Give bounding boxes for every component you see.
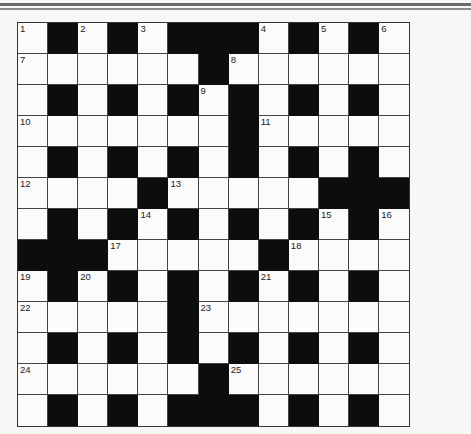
letter-cell[interactable] bbox=[289, 178, 319, 209]
letter-cell[interactable] bbox=[138, 271, 168, 302]
letter-cell[interactable]: 16 bbox=[379, 209, 409, 240]
letter-cell[interactable]: 4 bbox=[259, 23, 289, 54]
letter-cell[interactable]: 7 bbox=[18, 54, 48, 85]
letter-cell[interactable]: 2 bbox=[78, 23, 108, 54]
letter-cell[interactable] bbox=[18, 147, 48, 178]
letter-cell[interactable] bbox=[319, 333, 349, 364]
letter-cell[interactable] bbox=[379, 147, 409, 178]
letter-cell[interactable] bbox=[199, 147, 229, 178]
letter-cell[interactable] bbox=[259, 178, 289, 209]
letter-cell[interactable] bbox=[259, 395, 289, 426]
letter-cell[interactable] bbox=[289, 116, 319, 147]
letter-cell[interactable] bbox=[259, 302, 289, 333]
letter-cell[interactable]: 12 bbox=[18, 178, 48, 209]
letter-cell[interactable] bbox=[199, 271, 229, 302]
letter-cell[interactable] bbox=[138, 364, 168, 395]
letter-cell[interactable] bbox=[379, 54, 409, 85]
letter-cell[interactable]: 25 bbox=[229, 364, 259, 395]
letter-cell[interactable] bbox=[229, 178, 259, 209]
letter-cell[interactable] bbox=[18, 333, 48, 364]
letter-cell[interactable] bbox=[199, 209, 229, 240]
letter-cell[interactable] bbox=[259, 85, 289, 116]
letter-cell[interactable] bbox=[259, 54, 289, 85]
letter-cell[interactable] bbox=[379, 302, 409, 333]
letter-cell[interactable] bbox=[379, 364, 409, 395]
letter-cell[interactable] bbox=[108, 54, 138, 85]
letter-cell[interactable] bbox=[199, 333, 229, 364]
letter-cell[interactable]: 22 bbox=[18, 302, 48, 333]
letter-cell[interactable] bbox=[138, 116, 168, 147]
letter-cell[interactable] bbox=[18, 209, 48, 240]
letter-cell[interactable] bbox=[48, 364, 78, 395]
letter-cell[interactable] bbox=[78, 147, 108, 178]
letter-cell[interactable]: 9 bbox=[199, 85, 229, 116]
letter-cell[interactable]: 1 bbox=[18, 23, 48, 54]
letter-cell[interactable] bbox=[18, 395, 48, 426]
letter-cell[interactable] bbox=[138, 302, 168, 333]
letter-cell[interactable]: 6 bbox=[379, 23, 409, 54]
letter-cell[interactable] bbox=[18, 85, 48, 116]
letter-cell[interactable] bbox=[78, 333, 108, 364]
letter-cell[interactable] bbox=[78, 116, 108, 147]
letter-cell[interactable]: 17 bbox=[108, 240, 138, 271]
letter-cell[interactable] bbox=[78, 85, 108, 116]
letter-cell[interactable] bbox=[138, 147, 168, 178]
letter-cell[interactable]: 3 bbox=[138, 23, 168, 54]
letter-cell[interactable] bbox=[168, 54, 198, 85]
letter-cell[interactable] bbox=[199, 116, 229, 147]
letter-cell[interactable]: 23 bbox=[199, 302, 229, 333]
letter-cell[interactable] bbox=[379, 395, 409, 426]
letter-cell[interactable] bbox=[168, 116, 198, 147]
letter-cell[interactable] bbox=[349, 240, 379, 271]
letter-cell[interactable] bbox=[319, 54, 349, 85]
letter-cell[interactable] bbox=[78, 364, 108, 395]
letter-cell[interactable] bbox=[349, 116, 379, 147]
letter-cell[interactable] bbox=[168, 364, 198, 395]
letter-cell[interactable] bbox=[168, 240, 198, 271]
letter-cell[interactable] bbox=[108, 302, 138, 333]
letter-cell[interactable] bbox=[319, 364, 349, 395]
letter-cell[interactable] bbox=[108, 116, 138, 147]
letter-cell[interactable] bbox=[229, 302, 259, 333]
letter-cell[interactable] bbox=[379, 116, 409, 147]
letter-cell[interactable] bbox=[349, 54, 379, 85]
letter-cell[interactable] bbox=[319, 116, 349, 147]
letter-cell[interactable]: 20 bbox=[78, 271, 108, 302]
letter-cell[interactable]: 13 bbox=[168, 178, 198, 209]
letter-cell[interactable]: 21 bbox=[259, 271, 289, 302]
letter-cell[interactable]: 11 bbox=[259, 116, 289, 147]
letter-cell[interactable] bbox=[319, 271, 349, 302]
letter-cell[interactable]: 24 bbox=[18, 364, 48, 395]
letter-cell[interactable] bbox=[138, 85, 168, 116]
letter-cell[interactable] bbox=[138, 395, 168, 426]
letter-cell[interactable] bbox=[138, 333, 168, 364]
letter-cell[interactable] bbox=[48, 178, 78, 209]
letter-cell[interactable] bbox=[48, 116, 78, 147]
letter-cell[interactable] bbox=[48, 302, 78, 333]
letter-cell[interactable] bbox=[319, 395, 349, 426]
letter-cell[interactable] bbox=[78, 54, 108, 85]
letter-cell[interactable] bbox=[379, 85, 409, 116]
letter-cell[interactable] bbox=[379, 271, 409, 302]
letter-cell[interactable] bbox=[108, 364, 138, 395]
letter-cell[interactable] bbox=[78, 395, 108, 426]
letter-cell[interactable]: 14 bbox=[138, 209, 168, 240]
letter-cell[interactable]: 8 bbox=[229, 54, 259, 85]
letter-cell[interactable] bbox=[319, 147, 349, 178]
letter-cell[interactable] bbox=[78, 209, 108, 240]
letter-cell[interactable] bbox=[138, 54, 168, 85]
letter-cell[interactable] bbox=[349, 364, 379, 395]
letter-cell[interactable] bbox=[259, 147, 289, 178]
letter-cell[interactable] bbox=[319, 302, 349, 333]
letter-cell[interactable] bbox=[259, 364, 289, 395]
letter-cell[interactable] bbox=[319, 240, 349, 271]
letter-cell[interactable] bbox=[319, 85, 349, 116]
letter-cell[interactable] bbox=[379, 333, 409, 364]
letter-cell[interactable]: 15 bbox=[319, 209, 349, 240]
letter-cell[interactable] bbox=[48, 54, 78, 85]
letter-cell[interactable] bbox=[379, 240, 409, 271]
letter-cell[interactable] bbox=[349, 302, 379, 333]
letter-cell[interactable] bbox=[108, 178, 138, 209]
letter-cell[interactable] bbox=[259, 209, 289, 240]
letter-cell[interactable] bbox=[138, 240, 168, 271]
